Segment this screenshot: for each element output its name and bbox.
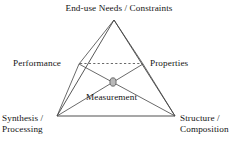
edge-apex-to-properties — [114, 20, 143, 64]
node-label-structure-line1: Structure / — [180, 113, 229, 124]
node-label-synthesis-line2: Processing — [2, 124, 43, 135]
edge-properties-to-bottom-left — [57, 64, 143, 116]
node-label-measurement: Measurement — [86, 92, 137, 102]
node-label-structure-line2: Composition — [180, 124, 229, 135]
node-label-synthesis-line1: Synthesis / — [2, 113, 43, 124]
node-label-performance: Performance — [13, 58, 61, 68]
node-center-marker — [110, 78, 116, 86]
node-label-properties: Properties — [150, 58, 188, 68]
materials-tetrahedron-diagram: End-use Needs / Constraints Performance … — [0, 0, 238, 146]
node-label-end-use-needs: End-use Needs / Constraints — [65, 3, 172, 13]
edge-performance-to-bottom-right — [79, 64, 175, 116]
edge-apex-to-performance — [79, 20, 114, 64]
node-label-structure-composition: Structure / Composition — [180, 113, 229, 134]
edge-performance-to-bottom-left — [57, 64, 79, 116]
edge-properties-to-bottom-right — [143, 64, 175, 116]
node-label-synthesis-processing: Synthesis / Processing — [2, 113, 43, 134]
